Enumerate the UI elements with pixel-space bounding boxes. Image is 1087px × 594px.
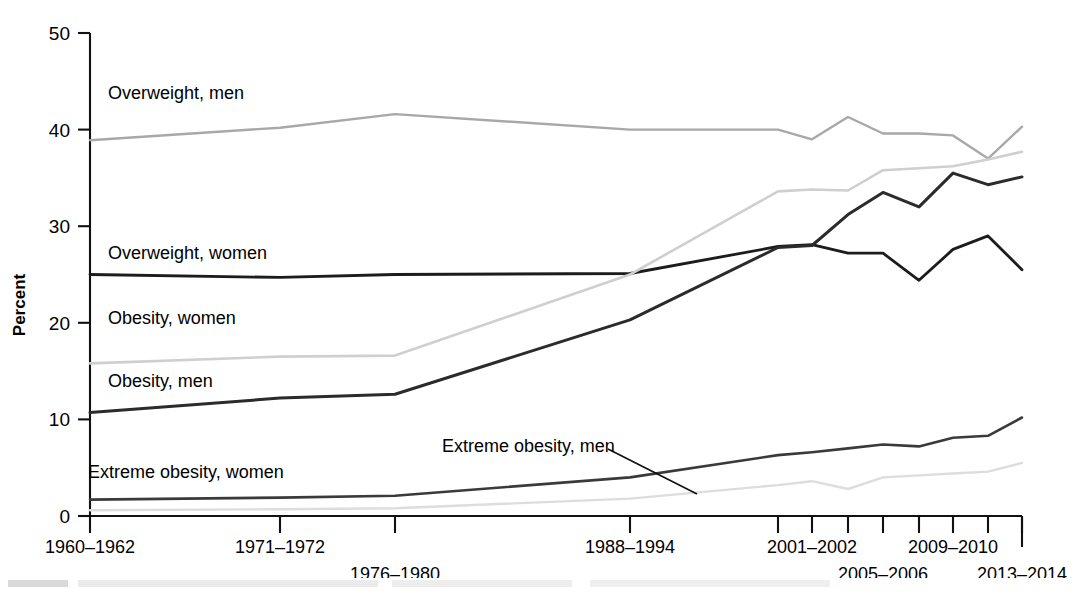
line-chart: Percent 01020304050 1960–19621971–197219… [0, 0, 1087, 594]
y-tick-label: 40 [49, 120, 70, 141]
y-tick-label: 10 [49, 409, 70, 430]
y-tick-group: 01020304050 [49, 23, 90, 527]
series-line-extreme-obesity-women [90, 418, 1022, 500]
series-label-obesity-men: Obesity, men [108, 371, 213, 391]
series-label-overweight-men: Overweight, men [108, 83, 244, 103]
caption-fragment [0, 578, 1087, 594]
series-line-obesity-men [90, 173, 1022, 413]
series-label-obesity-women: Obesity, women [108, 308, 236, 328]
y-tick-label: 50 [49, 23, 70, 44]
x-axis-group: 1960–19621971–19721988–19942001–20022009… [45, 516, 1067, 584]
x-tick-label: 1988–1994 [585, 537, 675, 557]
y-tick-label: 0 [59, 506, 70, 527]
series-label-layer: Overweight, menOverweight, womenObesity,… [88, 83, 615, 482]
series-label-extreme-obesity-women: Extreme obesity, women [88, 462, 284, 482]
x-tick-label: 1960–1962 [45, 537, 135, 557]
y-axis-group: Percent 01020304050 [10, 23, 90, 527]
figure-root: Percent 01020304050 1960–19621971–197219… [0, 0, 1087, 594]
x-tick-label-group: 1960–19621971–19721988–19942001–20022009… [45, 537, 1067, 584]
x-tick-label: 1971–1972 [235, 537, 325, 557]
series-label-overweight-women: Overweight, women [108, 243, 267, 263]
y-axis-title: Percent [10, 273, 29, 336]
leader-line-extreme-obesity-men [608, 449, 697, 494]
y-tick-label: 20 [49, 313, 70, 334]
series-label-extreme-obesity-men: Extreme obesity, men [442, 436, 615, 456]
x-tick-label: 2009–2010 [908, 537, 998, 557]
series-line-overweight-men [90, 114, 1022, 159]
y-tick-label: 30 [49, 216, 70, 237]
x-tick-group [90, 516, 1022, 533]
x-tick-label: 2001–2002 [767, 537, 857, 557]
